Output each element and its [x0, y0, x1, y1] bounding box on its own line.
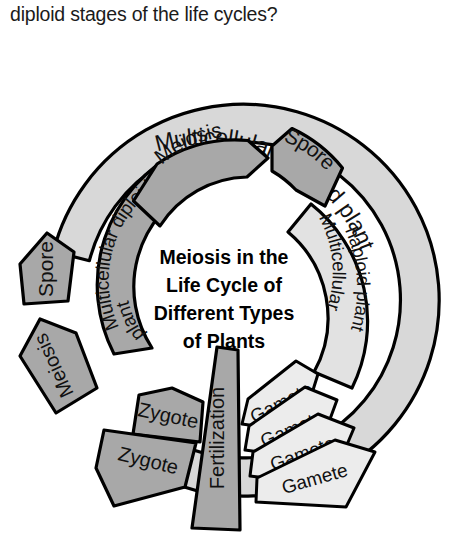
center-title-line-4: of Plants	[183, 330, 265, 352]
center-title-block: Meiosis in the Life Cycle of Different T…	[154, 246, 295, 352]
inner-arc-multicellular-haploid-plant: Multicellular haploid plant	[288, 204, 374, 388]
spore-left-label: Spore	[34, 241, 57, 297]
center-title-line-1: Meiosis in the	[160, 246, 289, 268]
fertilization-label: Fertilization	[206, 387, 228, 489]
segment-meiosis-left: Meiosis	[20, 319, 97, 413]
center-title-line-2: Life Cycle of	[166, 274, 282, 296]
segment-zygote-1: Zygote	[133, 388, 203, 442]
segment-zygote-2: Zygote	[96, 430, 196, 506]
life-cycle-diagram: Multicellular haploid plant Multicellula…	[0, 36, 449, 551]
center-title-line-3: Different Types	[154, 302, 295, 324]
question-text: diploid stages of the life cycles?	[10, 2, 440, 26]
